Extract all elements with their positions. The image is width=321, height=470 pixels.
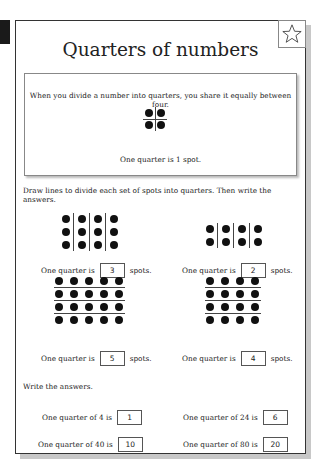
question-row: One quarter of 24 is 6 <box>183 410 293 425</box>
question-prompt: One quarter of 24 is <box>183 413 258 422</box>
exercise-3-answer-row: One quarter is 5 spots. <box>41 351 151 366</box>
exercise-suffix: spots. <box>130 354 152 363</box>
answer-box[interactable]: 2 <box>241 263 266 278</box>
exercise-suffix: spots. <box>130 266 152 275</box>
dot-grid-3 <box>55 277 127 329</box>
answer-box[interactable]: 4 <box>241 351 266 366</box>
question-prompt: One quarter of 80 is <box>183 440 258 449</box>
answer-box[interactable]: 6 <box>263 410 288 425</box>
exercise-prefix: One quarter is <box>182 266 236 275</box>
section1-instruction: Draw lines to divide each set of spots i… <box>23 186 305 204</box>
section2-instruction: Write the answers. <box>23 382 93 391</box>
answer-box[interactable]: 3 <box>100 263 125 278</box>
question-prompt: One quarter of 40 is <box>38 440 113 449</box>
exercise-suffix: spots. <box>271 266 293 275</box>
dot-grid-1 <box>62 215 118 255</box>
page-title: Quarters of numbers <box>16 39 305 60</box>
answer-box[interactable]: 10 <box>118 437 143 452</box>
exercise-4-answer-row: One quarter is 4 spots. <box>182 351 292 366</box>
exercise-prefix: One quarter is <box>182 354 236 363</box>
page-tab-marker <box>0 20 10 44</box>
intro-caption: One quarter is 1 spot. <box>25 155 296 164</box>
exercise-prefix: One quarter is <box>41 266 95 275</box>
question-row: One quarter of 4 is 1 <box>42 410 147 425</box>
question-row: One quarter of 80 is 20 <box>183 437 293 452</box>
answer-box[interactable]: 1 <box>117 410 142 425</box>
exercise-1-answer-row: One quarter is 3 spots. <box>41 263 151 278</box>
intro-box: When you divide a number into quarters, … <box>24 73 297 176</box>
question-prompt: One quarter of 4 is <box>42 413 112 422</box>
dot-grid-2 <box>206 225 262 251</box>
answer-box[interactable]: 20 <box>263 437 288 452</box>
worksheet-page: Quarters of numbers When you divide a nu… <box>15 20 306 454</box>
exercise-suffix: spots. <box>271 354 293 363</box>
exercise-prefix: One quarter is <box>41 354 95 363</box>
question-row: One quarter of 40 is 10 <box>38 437 148 452</box>
exercise-2-answer-row: One quarter is 2 spots. <box>182 263 292 278</box>
intro-dot-example <box>143 107 169 133</box>
dot-grid-4 <box>206 277 262 329</box>
answer-box[interactable]: 5 <box>100 351 125 366</box>
